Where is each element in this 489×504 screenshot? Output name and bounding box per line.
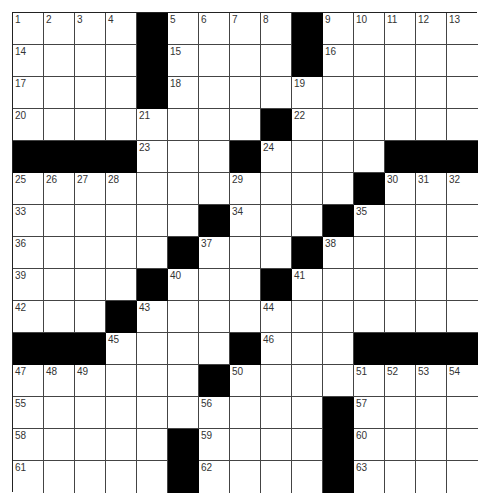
grid-cell[interactable]: 28 bbox=[106, 173, 137, 205]
grid-cell[interactable]: 4 bbox=[106, 13, 137, 45]
grid-cell[interactable] bbox=[168, 397, 199, 429]
grid-cell[interactable]: 21 bbox=[137, 109, 168, 141]
grid-cell[interactable] bbox=[385, 461, 416, 493]
grid-cell[interactable] bbox=[137, 397, 168, 429]
grid-cell[interactable] bbox=[137, 205, 168, 237]
grid-cell[interactable] bbox=[385, 77, 416, 109]
grid-cell[interactable] bbox=[230, 109, 261, 141]
grid-cell[interactable] bbox=[385, 45, 416, 77]
grid-cell[interactable]: 2 bbox=[44, 13, 75, 45]
grid-cell[interactable] bbox=[44, 301, 75, 333]
grid-cell[interactable] bbox=[354, 301, 385, 333]
grid-cell[interactable]: 61 bbox=[13, 461, 44, 493]
grid-cell[interactable] bbox=[261, 237, 292, 269]
grid-cell[interactable] bbox=[106, 365, 137, 397]
grid-cell[interactable] bbox=[75, 301, 106, 333]
grid-cell[interactable]: 5 bbox=[168, 13, 199, 45]
grid-cell[interactable]: 57 bbox=[354, 397, 385, 429]
grid-cell[interactable] bbox=[416, 429, 447, 461]
grid-cell[interactable] bbox=[199, 45, 230, 77]
grid-cell[interactable]: 54 bbox=[447, 365, 478, 397]
grid-cell[interactable] bbox=[230, 429, 261, 461]
grid-cell[interactable] bbox=[354, 141, 385, 173]
grid-cell[interactable] bbox=[168, 109, 199, 141]
grid-cell[interactable]: 50 bbox=[230, 365, 261, 397]
grid-cell[interactable]: 3 bbox=[75, 13, 106, 45]
grid-cell[interactable]: 17 bbox=[13, 77, 44, 109]
grid-cell[interactable] bbox=[447, 109, 478, 141]
grid-cell[interactable] bbox=[230, 461, 261, 493]
grid-cell[interactable] bbox=[292, 461, 323, 493]
grid-cell[interactable] bbox=[323, 109, 354, 141]
grid-cell[interactable] bbox=[447, 461, 478, 493]
grid-cell[interactable] bbox=[447, 237, 478, 269]
grid-cell[interactable]: 49 bbox=[75, 365, 106, 397]
grid-cell[interactable] bbox=[137, 173, 168, 205]
grid-cell[interactable] bbox=[447, 301, 478, 333]
grid-cell[interactable] bbox=[106, 77, 137, 109]
grid-cell[interactable]: 27 bbox=[75, 173, 106, 205]
grid-cell[interactable]: 16 bbox=[323, 45, 354, 77]
grid-cell[interactable]: 22 bbox=[292, 109, 323, 141]
grid-cell[interactable]: 18 bbox=[168, 77, 199, 109]
grid-cell[interactable] bbox=[106, 45, 137, 77]
grid-cell[interactable] bbox=[75, 397, 106, 429]
grid-cell[interactable]: 36 bbox=[13, 237, 44, 269]
grid-cell[interactable] bbox=[261, 397, 292, 429]
grid-cell[interactable] bbox=[44, 237, 75, 269]
grid-cell[interactable] bbox=[385, 301, 416, 333]
grid-cell[interactable] bbox=[44, 269, 75, 301]
grid-cell[interactable] bbox=[75, 269, 106, 301]
grid-cell[interactable]: 59 bbox=[199, 429, 230, 461]
grid-cell[interactable] bbox=[416, 205, 447, 237]
grid-cell[interactable] bbox=[292, 141, 323, 173]
grid-cell[interactable] bbox=[261, 365, 292, 397]
grid-cell[interactable] bbox=[106, 429, 137, 461]
grid-cell[interactable] bbox=[416, 461, 447, 493]
grid-cell[interactable] bbox=[323, 141, 354, 173]
grid-cell[interactable] bbox=[168, 365, 199, 397]
grid-cell[interactable] bbox=[44, 77, 75, 109]
grid-cell[interactable]: 13 bbox=[447, 13, 478, 45]
grid-cell[interactable] bbox=[106, 269, 137, 301]
grid-cell[interactable] bbox=[385, 269, 416, 301]
grid-cell[interactable] bbox=[168, 333, 199, 365]
grid-cell[interactable]: 7 bbox=[230, 13, 261, 45]
grid-cell[interactable] bbox=[416, 45, 447, 77]
grid-cell[interactable] bbox=[168, 301, 199, 333]
grid-cell[interactable] bbox=[292, 429, 323, 461]
grid-cell[interactable] bbox=[292, 205, 323, 237]
grid-cell[interactable] bbox=[230, 45, 261, 77]
grid-cell[interactable] bbox=[199, 301, 230, 333]
grid-cell[interactable] bbox=[75, 461, 106, 493]
grid-cell[interactable] bbox=[323, 173, 354, 205]
grid-cell[interactable] bbox=[199, 109, 230, 141]
grid-cell[interactable] bbox=[292, 397, 323, 429]
grid-cell[interactable] bbox=[447, 429, 478, 461]
grid-cell[interactable] bbox=[44, 205, 75, 237]
grid-cell[interactable]: 26 bbox=[44, 173, 75, 205]
grid-cell[interactable] bbox=[199, 333, 230, 365]
grid-cell[interactable] bbox=[230, 397, 261, 429]
grid-cell[interactable]: 39 bbox=[13, 269, 44, 301]
grid-cell[interactable] bbox=[447, 397, 478, 429]
grid-cell[interactable]: 41 bbox=[292, 269, 323, 301]
grid-cell[interactable] bbox=[75, 109, 106, 141]
grid-cell[interactable] bbox=[354, 45, 385, 77]
grid-cell[interactable] bbox=[447, 45, 478, 77]
grid-cell[interactable] bbox=[354, 109, 385, 141]
grid-cell[interactable]: 63 bbox=[354, 461, 385, 493]
grid-cell[interactable]: 29 bbox=[230, 173, 261, 205]
grid-cell[interactable] bbox=[137, 237, 168, 269]
grid-cell[interactable]: 35 bbox=[354, 205, 385, 237]
grid-cell[interactable] bbox=[75, 77, 106, 109]
grid-cell[interactable] bbox=[323, 269, 354, 301]
grid-cell[interactable] bbox=[354, 269, 385, 301]
grid-cell[interactable] bbox=[416, 109, 447, 141]
grid-cell[interactable] bbox=[447, 269, 478, 301]
grid-cell[interactable] bbox=[75, 237, 106, 269]
grid-cell[interactable] bbox=[168, 173, 199, 205]
grid-cell[interactable] bbox=[292, 301, 323, 333]
grid-cell[interactable]: 62 bbox=[199, 461, 230, 493]
grid-cell[interactable] bbox=[447, 77, 478, 109]
